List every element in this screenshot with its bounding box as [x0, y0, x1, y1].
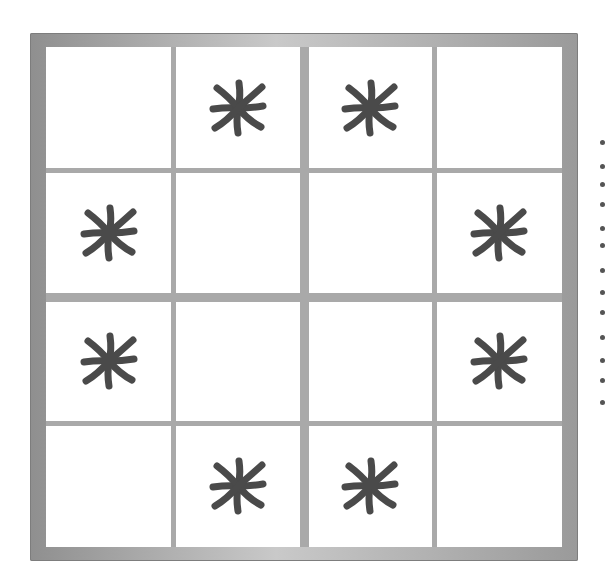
asterisk-icon: [466, 328, 532, 394]
asterisk-icon: [337, 453, 403, 519]
cell-r1-c1[interactable]: [46, 47, 171, 168]
cell-r3-c3[interactable]: [309, 302, 432, 421]
cell-r2-c3[interactable]: [309, 173, 432, 292]
asterisk-icon: [205, 453, 271, 519]
cell-r2-c4[interactable]: [437, 173, 562, 292]
asterisk-icon: [76, 200, 142, 266]
cell-r1-c3[interactable]: [309, 47, 432, 168]
puzzle-board: [30, 33, 578, 561]
cell-r4-c2[interactable]: [176, 426, 299, 547]
asterisk-icon: [205, 75, 271, 141]
asterisk-icon: [76, 328, 142, 394]
edge-dots-decoration: [598, 130, 606, 430]
cell-r4-c3[interactable]: [309, 426, 432, 547]
cell-r3-c1[interactable]: [46, 302, 171, 421]
asterisk-icon: [466, 200, 532, 266]
cell-r1-c2[interactable]: [176, 47, 299, 168]
cell-r4-c4[interactable]: [437, 426, 562, 547]
cell-r1-c4[interactable]: [437, 47, 562, 168]
cell-r3-c2[interactable]: [176, 302, 299, 421]
cell-r4-c1[interactable]: [46, 426, 171, 547]
cell-r2-c2[interactable]: [176, 173, 299, 292]
cell-r3-c4[interactable]: [437, 302, 562, 421]
asterisk-icon: [337, 75, 403, 141]
puzzle-grid: [46, 47, 562, 547]
cell-r2-c1[interactable]: [46, 173, 171, 292]
